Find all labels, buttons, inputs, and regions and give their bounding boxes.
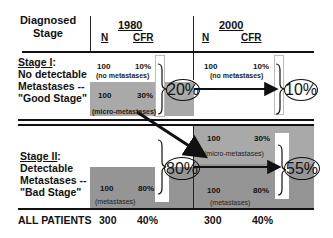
cfr-ellipse-2000-stage2: 55% bbox=[284, 157, 320, 180]
brace-1980-s1 bbox=[158, 64, 166, 114]
totals-1980-cfr: 40% bbox=[137, 214, 158, 226]
totals-2000-n: 300 bbox=[204, 214, 222, 226]
totals-label: ALL PATIENTS bbox=[18, 214, 92, 226]
cfr-ellipse-1980-stage1: 20% bbox=[166, 79, 200, 101]
cfr-ellipse-1980-stage2: 80% bbox=[164, 157, 200, 180]
totals-1980-n: 300 bbox=[99, 214, 117, 226]
totals-2000-cfr: 40% bbox=[252, 214, 273, 226]
brace-2000-s1 bbox=[276, 64, 284, 114]
arrow-migration bbox=[137, 112, 203, 155]
cfr-ellipse-2000-stage1: 10% bbox=[284, 79, 318, 101]
diagram-overlay bbox=[0, 0, 333, 238]
